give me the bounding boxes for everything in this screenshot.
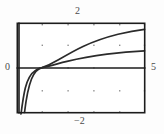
axis-label-left: 0	[5, 62, 10, 72]
plot-area	[0, 0, 164, 134]
axis-label-bottom: −2	[74, 116, 85, 126]
axis-label-top: 2	[75, 6, 80, 16]
figure-container: 2 −2 0 5	[0, 0, 164, 134]
axis-label-right: 5	[151, 62, 156, 72]
